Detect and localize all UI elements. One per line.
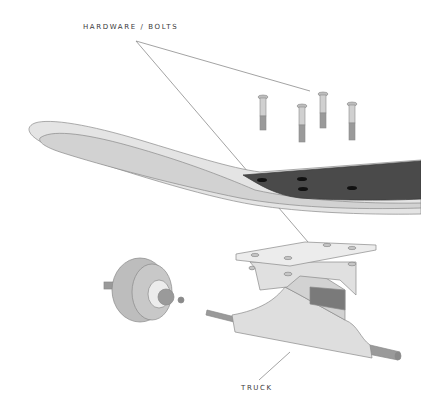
diagram-illustration — [0, 0, 421, 414]
wheel — [104, 258, 184, 322]
baseplate-nut — [249, 266, 255, 270]
wheel-bearing — [158, 289, 174, 305]
leader-line-truck — [259, 352, 290, 380]
bolt-icon — [318, 92, 328, 128]
axle-nut — [178, 297, 184, 303]
bolt-icon — [258, 95, 268, 130]
baseplate-nut — [284, 272, 292, 276]
truck-axle-left — [206, 310, 235, 322]
truck-hanger — [232, 287, 372, 358]
skateboard-diagram: HARDWARE / BOLTS TRUCK — [0, 0, 421, 414]
baseplate-nut — [348, 262, 356, 266]
truck — [206, 242, 401, 360]
label-truck: TRUCK — [241, 384, 273, 392]
leader-line-hardware-bolts — [136, 41, 310, 91]
bolt-icon — [297, 104, 307, 142]
bolts-group — [258, 92, 357, 142]
leader-line-hardware-truck — [136, 41, 308, 242]
deck — [29, 121, 421, 214]
bolt-icon — [347, 102, 357, 140]
axle-end-nut — [395, 352, 401, 360]
label-hardware-bolts: HARDWARE / BOLTS — [83, 23, 178, 31]
